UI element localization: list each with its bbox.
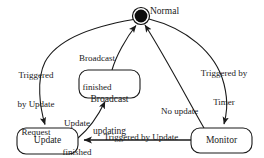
transition-label-line: Timer: [196, 98, 252, 108]
state-label-monitor: Monitor: [191, 135, 252, 146]
state-diagram: Normal Broadcast updating Update Monitor…: [0, 0, 264, 158]
transition-label-line: finished: [70, 83, 124, 93]
transition-label-line: Triggered: [8, 71, 64, 81]
transition-label-update-to-broadcast: Update finished: [55, 100, 99, 158]
transition-label-line: Triggered by: [196, 69, 252, 79]
transition-label-normal-to-monitor: Triggered by Timer: [196, 50, 252, 126]
transition-label-line: Broadcast: [70, 54, 124, 64]
transition-label-line: finished: [55, 148, 99, 158]
state-normal-fill: [135, 10, 148, 23]
state-label-normal: Normal: [150, 6, 198, 17]
transition-label-line: Update: [55, 119, 99, 129]
